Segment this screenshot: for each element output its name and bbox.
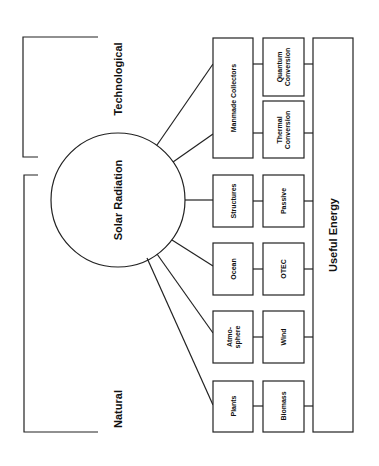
technological-label: Technological bbox=[112, 42, 124, 115]
ocean-label: Ocean bbox=[230, 258, 237, 279]
plants-label: Plants bbox=[230, 395, 237, 416]
quantum-label-line2: Conversion bbox=[284, 48, 291, 87]
connector-atmosphere bbox=[157, 254, 213, 333]
atmosphere-label-line2: sphere bbox=[234, 325, 242, 348]
structures-label: Structures bbox=[230, 183, 237, 218]
connector-manmade-lower bbox=[173, 134, 213, 162]
quantum-label-line1: Quantum bbox=[276, 52, 284, 83]
connector-manmade-upper bbox=[157, 64, 213, 145]
solar-energy-diagram: Technological Natural Solar Radiation Ma… bbox=[0, 0, 379, 466]
biomass-label: Biomass bbox=[280, 391, 287, 420]
box-atmosphere bbox=[213, 311, 253, 363]
thermal-label-line1: Thermal bbox=[276, 116, 283, 143]
otec-label: OTEC bbox=[280, 259, 287, 278]
manmade-collectors-label: Manmade Collectors bbox=[230, 64, 237, 133]
useful-energy-label: Useful Energy bbox=[327, 197, 339, 272]
technological-bracket bbox=[23, 37, 98, 157]
thermal-label-line2: Conversion bbox=[284, 111, 291, 150]
solar-radiation-label: Solar Radiation bbox=[112, 159, 124, 240]
wind-label: Wind bbox=[280, 328, 287, 345]
passive-label: Passive bbox=[280, 188, 287, 214]
connector-plants bbox=[147, 258, 213, 405]
natural-label: Natural bbox=[112, 390, 124, 428]
atmosphere-label-line1: Atmo- bbox=[226, 326, 233, 347]
connector-ocean bbox=[172, 240, 213, 266]
